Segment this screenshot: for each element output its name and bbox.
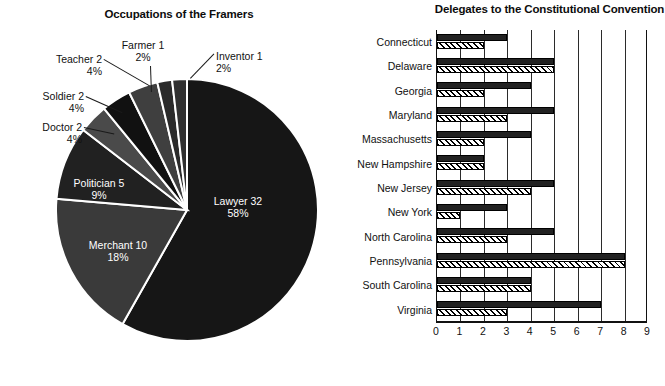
- bar-row-label-new-jersey: New Jersey: [377, 183, 432, 194]
- pie-label-merchant: Merchant 10 18%: [74, 240, 162, 264]
- bar-delaware-delegates[interactable]: [437, 58, 554, 65]
- pie-chart-title: Occupations of the Framers: [84, 8, 274, 20]
- pie-chart-panel: Occupations of the Framers Teacher 2 4% …: [0, 0, 340, 386]
- bar-south-carolina-signers[interactable]: [437, 285, 531, 292]
- bar-new-hampshire-signers[interactable]: [437, 163, 484, 170]
- bar-row-new-jersey: New Jersey: [437, 176, 646, 200]
- bar-row-massachusetts: Massachusetts: [437, 127, 646, 151]
- pie-label-politician: Politician 5 9%: [57, 178, 141, 202]
- bar-row-north-carolina: North Carolina: [437, 225, 646, 249]
- bar-row-new-york: New York: [437, 200, 646, 224]
- bar-maryland-delegates[interactable]: [437, 107, 554, 114]
- bar-row-georgia: Georgia: [437, 79, 646, 103]
- bar-row-label-south-carolina: South Carolina: [363, 280, 432, 291]
- bar-row-delaware: Delaware: [437, 54, 646, 78]
- bar-row-label-north-carolina: North Carolina: [364, 232, 432, 243]
- bar-north-carolina-signers[interactable]: [437, 236, 507, 243]
- bar-massachusetts-delegates[interactable]: [437, 131, 531, 138]
- x-tick-label-0: 0: [427, 325, 445, 337]
- pie-label-teacher: Teacher 2 4%: [18, 54, 102, 78]
- bar-plot-area: ConnecticutDelawareGeorgiaMarylandMassac…: [436, 30, 647, 322]
- x-axis-line: [436, 321, 647, 323]
- bar-georgia-signers[interactable]: [437, 90, 484, 97]
- bar-pennsylvania-delegates[interactable]: [437, 253, 625, 260]
- bar-row-connecticut: Connecticut: [437, 30, 646, 54]
- x-tick-label-8: 8: [615, 325, 633, 337]
- pie-chart-graphic: [54, 77, 320, 343]
- bar-row-label-new-york: New York: [388, 207, 432, 218]
- bar-row-pennsylvania: Pennsylvania: [437, 249, 646, 273]
- chart-page: Occupations of the Framers Teacher 2 4% …: [0, 0, 665, 386]
- bar-new-jersey-signers[interactable]: [437, 188, 531, 195]
- bar-new-jersey-delegates[interactable]: [437, 180, 554, 187]
- bar-north-carolina-delegates[interactable]: [437, 228, 554, 235]
- bar-georgia-delegates[interactable]: [437, 82, 531, 89]
- x-tick-label-1: 1: [450, 325, 468, 337]
- bar-new-york-signers[interactable]: [437, 212, 460, 219]
- bar-row-label-virginia: Virginia: [397, 305, 432, 316]
- pie-label-farmer: Farmer 1 2%: [104, 40, 182, 64]
- bar-new-hampshire-delegates[interactable]: [437, 155, 484, 162]
- bar-row-new-hampshire: New Hampshire: [437, 152, 646, 176]
- bar-connecticut-signers[interactable]: [437, 42, 484, 49]
- bar-row-label-massachusetts: Massachusetts: [362, 134, 432, 145]
- bar-row-south-carolina: South Carolina: [437, 273, 646, 297]
- leader-line-inventor: [190, 54, 214, 79]
- x-tick-label-3: 3: [497, 325, 515, 337]
- pie-label-lawyer: Lawyer 32 58%: [196, 196, 280, 220]
- bar-row-virginia: Virginia: [437, 298, 646, 322]
- x-tick-label-5: 5: [544, 325, 562, 337]
- bar-connecticut-delegates[interactable]: [437, 34, 507, 41]
- bar-south-carolina-delegates[interactable]: [437, 277, 531, 284]
- x-tick-label-4: 4: [521, 325, 539, 337]
- bar-chart-title: Delegates to the Constitutional Conventi…: [432, 3, 665, 15]
- bar-row-label-connecticut: Connecticut: [377, 37, 432, 48]
- pie-label-inventor: Inventor 1 2%: [216, 51, 276, 75]
- x-tick-label-7: 7: [591, 325, 609, 337]
- bar-row-label-delaware: Delaware: [388, 61, 432, 72]
- x-tick-label-6: 6: [568, 325, 586, 337]
- bar-massachusetts-signers[interactable]: [437, 139, 484, 146]
- bar-delaware-signers[interactable]: [437, 66, 554, 73]
- bar-row-label-maryland: Maryland: [389, 110, 432, 121]
- x-tick-label-2: 2: [474, 325, 492, 337]
- pie-label-soldier: Soldier 2 4%: [0, 91, 84, 115]
- pie-svg: [54, 77, 320, 343]
- pie-label-doctor: Doctor 2 4%: [0, 122, 82, 146]
- bar-row-maryland: Maryland: [437, 103, 646, 127]
- bar-maryland-signers[interactable]: [437, 115, 507, 122]
- bar-chart-panel: Delegates to the Constitutional Conventi…: [340, 0, 665, 386]
- bar-virginia-delegates[interactable]: [437, 301, 601, 308]
- bar-row-label-georgia: Georgia: [395, 86, 432, 97]
- bar-new-york-delegates[interactable]: [437, 204, 507, 211]
- bar-row-label-pennsylvania: Pennsylvania: [370, 256, 432, 267]
- bar-row-label-new-hampshire: New Hampshire: [357, 159, 432, 170]
- bar-pennsylvania-signers[interactable]: [437, 261, 625, 268]
- bar-virginia-signers[interactable]: [437, 309, 507, 316]
- x-tick-label-9: 9: [638, 325, 656, 337]
